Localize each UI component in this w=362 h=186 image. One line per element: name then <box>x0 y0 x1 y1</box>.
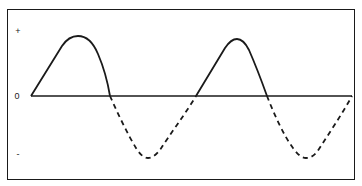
waveform-plot <box>0 0 362 186</box>
negative-half-cycle-2 <box>267 96 352 158</box>
positive-half-cycle-2 <box>196 39 267 96</box>
positive-half-cycle-1 <box>31 36 110 96</box>
negative-half-cycle-1 <box>110 96 196 158</box>
